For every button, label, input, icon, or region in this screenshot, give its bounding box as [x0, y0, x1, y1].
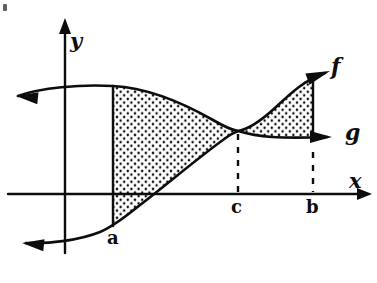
point-label-a: a — [107, 229, 119, 247]
point-label-c: c — [231, 198, 242, 216]
point-label-b: b — [306, 198, 319, 216]
curve-g-left-arrow-icon — [22, 239, 45, 251]
figure-canvas: x y f g a c b — [0, 0, 377, 283]
x-axis-label: x — [349, 170, 362, 191]
curve-g-label: g — [345, 121, 360, 143]
curve-f-label: f — [331, 55, 340, 77]
diagram-svg — [0, 0, 377, 283]
shaded-region-a-to-c — [113, 86, 238, 226]
y-axis-label: y — [70, 30, 82, 51]
curve-f-right-arrow-icon — [305, 71, 330, 85]
